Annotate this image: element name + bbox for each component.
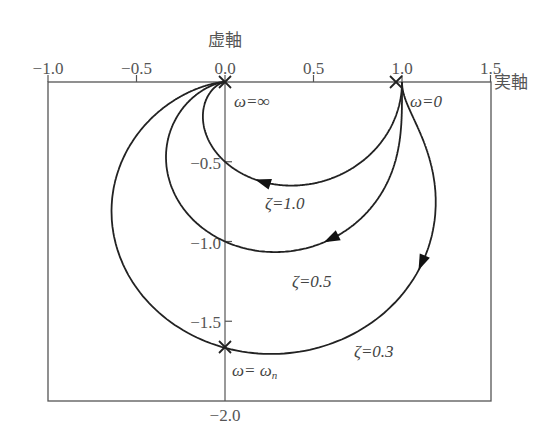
x-axis-ticks: −1.0−0.50.00.51.01.5 — [33, 59, 502, 82]
zeta-05-label: ζ=0.5 — [292, 272, 332, 291]
x-tick-label: 1.0 — [391, 59, 412, 78]
nyquist-plot: −1.0−0.50.00.51.01.5 −0.5−1.0−1.5−2.0 虚軸… — [0, 0, 552, 440]
x-tick-label: −1.0 — [33, 59, 64, 78]
x-tick-label: −0.5 — [121, 59, 152, 78]
y-axis-ticks: −0.5−1.0−1.5−2.0 — [190, 154, 240, 425]
omega-infinity-label: ω=∞ — [234, 92, 270, 111]
y-tick-label: −1.5 — [190, 313, 221, 332]
direction-arrow-icon — [419, 253, 430, 270]
omega-n-label: ω= ωn — [232, 361, 278, 381]
x-tick-label: 0.5 — [303, 59, 324, 78]
nyquist-curves — [112, 82, 436, 354]
imag-axis-label: 虚軸 — [208, 30, 242, 50]
zeta-1-label: ζ=1.0 — [265, 194, 305, 213]
curve-ζ=1.0 — [203, 82, 402, 186]
curve-ζ=0.3 — [112, 82, 436, 354]
omega-zero-label: ω=0 — [410, 92, 442, 111]
x-tick-label: 0.0 — [214, 59, 235, 78]
zeta-03-label: ζ=0.3 — [354, 342, 394, 361]
direction-arrow-icon — [255, 179, 272, 189]
direction-arrow-icon — [324, 230, 341, 242]
y-tick-label: −2.0 — [210, 406, 241, 425]
real-axis-label: 実軸 — [494, 72, 528, 92]
y-tick-label: −0.5 — [190, 154, 221, 173]
